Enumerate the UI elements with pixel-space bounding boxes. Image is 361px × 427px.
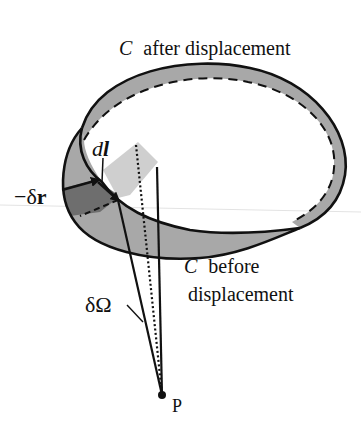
delta-omega-leader xyxy=(127,305,143,322)
label-dl-l: l xyxy=(103,136,110,161)
label-after-symbol: C xyxy=(119,37,133,59)
label-delta-r-prefix: −δ xyxy=(14,184,37,209)
displacement-diagram: C after displacement C before displaceme… xyxy=(0,0,361,427)
label-dl: dl xyxy=(92,136,110,161)
dl-leader xyxy=(102,158,103,182)
label-delta-omega: δΩ xyxy=(85,292,112,317)
scan-line xyxy=(0,205,361,212)
label-delta-r: −δr xyxy=(14,184,47,209)
point-p-dot xyxy=(158,391,166,399)
projected-patch xyxy=(103,142,158,198)
label-point-p: P xyxy=(172,396,182,416)
label-after: C after displacement xyxy=(119,37,291,60)
label-before-line2: displacement xyxy=(188,283,294,306)
label-delta-r-r: r xyxy=(37,184,47,209)
label-before-line1: C before xyxy=(184,255,260,277)
label-before-text1: before xyxy=(208,255,259,277)
label-after-text: after displacement xyxy=(143,37,291,60)
label-before-symbol: C xyxy=(184,255,198,277)
